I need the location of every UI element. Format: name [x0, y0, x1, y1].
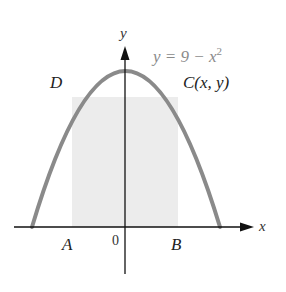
equation-label: y = 9 − x2: [151, 45, 222, 66]
point-c-label: C(x, y): [183, 73, 230, 92]
x-axis-label: x: [258, 218, 266, 234]
y-axis-arrow-icon: [121, 46, 130, 60]
point-a-label: A: [61, 235, 73, 254]
point-d-label: D: [49, 73, 63, 92]
point-b-label: B: [171, 235, 182, 254]
origin-label: 0: [112, 233, 119, 248]
y-axis-label: y: [118, 25, 127, 41]
equation-text: y = 9 − x: [151, 47, 217, 66]
parabola-diagram: y x 0 y = 9 − x2 D C(x, y) A B: [0, 0, 286, 292]
equation-exponent: 2: [217, 45, 223, 57]
x-axis-arrow-icon: [240, 223, 254, 232]
